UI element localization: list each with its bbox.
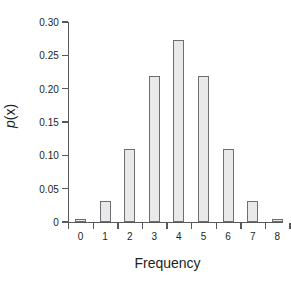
bar (100, 201, 111, 222)
x-tick-mark (216, 223, 217, 229)
y-tick-label: 0.20 (39, 83, 59, 94)
y-tick-label: 0.30 (39, 17, 59, 28)
x-axis-title: Frequency (0, 255, 291, 271)
y-tick-label: 0.25 (39, 50, 59, 61)
y-axis-title: p(x) (2, 71, 18, 161)
y-tick-mark (62, 55, 68, 56)
y-tick-label: 0 (53, 217, 59, 228)
bar (149, 76, 160, 222)
x-tick-label: 0 (69, 231, 93, 242)
x-tick-mark (68, 223, 69, 229)
x-tick-label: 7 (241, 231, 265, 242)
y-axis-title-rest: (x) (2, 104, 18, 120)
y-axis-title-italic: p (2, 120, 18, 128)
y-axis-line (68, 22, 69, 223)
x-tick-mark (142, 223, 143, 229)
x-tick-mark (191, 223, 192, 229)
x-tick-label: 3 (142, 231, 166, 242)
bar (173, 40, 184, 222)
x-tick-label: 6 (216, 231, 240, 242)
chart-figure: 00.050.100.150.200.250.30 012345678 p(x)… (0, 0, 291, 282)
y-tick-mark (62, 155, 68, 156)
x-tick-label: 8 (265, 231, 289, 242)
x-tick-label: 5 (192, 231, 216, 242)
x-tick-mark (289, 223, 290, 229)
bar (198, 76, 209, 222)
y-tick-mark (62, 21, 68, 22)
bar (75, 219, 86, 223)
x-tick-mark (265, 223, 266, 229)
y-tick-mark (62, 88, 68, 89)
x-axis-line (68, 222, 283, 223)
x-tick-mark (240, 223, 241, 229)
x-tick-mark (93, 223, 94, 229)
bar (247, 201, 258, 222)
bar (272, 219, 283, 223)
y-tick-mark (62, 121, 68, 122)
x-tick-mark (117, 223, 118, 229)
x-tick-label: 4 (167, 231, 191, 242)
y-tick-label: 0.10 (39, 150, 59, 161)
bar (124, 149, 135, 222)
y-tick-label: 0.05 (39, 183, 59, 194)
y-tick-mark (62, 188, 68, 189)
x-tick-label: 1 (93, 231, 117, 242)
plot-area: 00.050.100.150.200.250.30 012345678 p(x)… (0, 0, 291, 282)
y-tick-label: 0.15 (39, 117, 59, 128)
x-axis-title-label: Frequency (134, 255, 200, 271)
x-tick-label: 2 (118, 231, 142, 242)
x-tick-mark (166, 223, 167, 229)
bar (223, 149, 234, 222)
